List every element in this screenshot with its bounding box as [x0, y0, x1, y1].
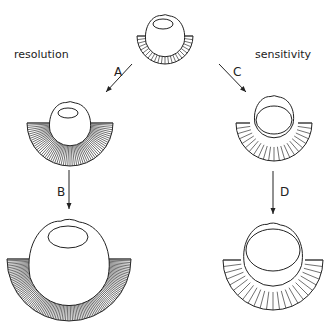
arrow-b: [67, 170, 72, 209]
eye-resolution-2: [7, 219, 131, 321]
arrow-label-a: A: [114, 65, 123, 79]
eyeball: [29, 219, 109, 305]
arrow-label-c: C: [233, 65, 241, 79]
arrow-label-d: D: [280, 185, 289, 199]
eyeball: [254, 96, 293, 138]
eyeball: [244, 223, 303, 286]
arrowhead-icon: [271, 208, 276, 214]
eyeball: [145, 15, 184, 57]
arrow-d: [271, 171, 276, 214]
eye-sensitivity-2: [223, 223, 323, 310]
eye-sensitivity-1: [236, 96, 312, 161]
arrowhead-icon: [67, 203, 72, 209]
eye-ancestral: [137, 15, 193, 64]
sensitivity-title: sensitivity: [255, 48, 312, 61]
resolution-title: resolution: [14, 48, 69, 61]
eye-evolution-diagram: resolution sensitivity A B C D: [0, 0, 328, 325]
eye-resolution-1: [27, 102, 113, 166]
arrow-label-b: B: [57, 185, 65, 199]
